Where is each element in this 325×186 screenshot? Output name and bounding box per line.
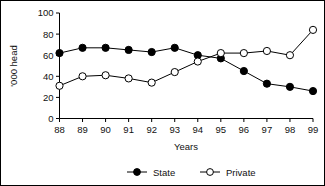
x-tick-label: 97 bbox=[262, 124, 273, 135]
y-tick-label: 40 bbox=[43, 71, 54, 82]
x-tick-label: 98 bbox=[285, 124, 296, 135]
x-tick-label: 90 bbox=[100, 124, 111, 135]
data-point-state-96 bbox=[240, 67, 247, 74]
y-tick-label: 20 bbox=[43, 92, 54, 103]
y-tick-label: 0 bbox=[48, 113, 53, 124]
legend-label-private: Private bbox=[226, 167, 256, 178]
data-point-private-90 bbox=[102, 72, 109, 79]
y-tick-label: 100 bbox=[38, 7, 54, 18]
y-tick-label: 80 bbox=[43, 29, 54, 40]
x-tick-label: 96 bbox=[239, 124, 250, 135]
data-point-private-94 bbox=[194, 58, 201, 65]
data-point-state-93 bbox=[171, 44, 178, 51]
data-point-private-89 bbox=[79, 73, 86, 80]
legend-marker-private bbox=[207, 169, 214, 176]
chart-canvas: 020406080100 888990919293949596979899 Ye… bbox=[0, 0, 325, 186]
legend-label-state: State bbox=[153, 167, 175, 178]
data-point-state-99 bbox=[309, 87, 316, 94]
data-point-private-97 bbox=[263, 47, 270, 54]
x-tick-label: 94 bbox=[192, 124, 203, 135]
x-tick-label: 93 bbox=[169, 124, 180, 135]
legend-marker-state bbox=[134, 169, 141, 176]
data-point-state-90 bbox=[102, 44, 109, 51]
data-point-state-98 bbox=[286, 83, 293, 90]
x-tick-label: 91 bbox=[123, 124, 134, 135]
data-point-private-88 bbox=[56, 82, 63, 89]
data-point-state-88 bbox=[56, 49, 63, 56]
data-point-private-92 bbox=[148, 79, 155, 86]
data-point-private-98 bbox=[286, 52, 293, 59]
data-point-private-96 bbox=[240, 49, 247, 56]
data-point-state-97 bbox=[263, 80, 270, 87]
x-tick-label: 95 bbox=[216, 124, 227, 135]
x-tick-label: 99 bbox=[308, 124, 319, 135]
x-tick-label: 89 bbox=[77, 124, 88, 135]
data-point-private-99 bbox=[309, 26, 316, 33]
data-point-state-92 bbox=[148, 48, 155, 55]
x-tick-label: 88 bbox=[54, 124, 65, 135]
data-point-state-89 bbox=[79, 44, 86, 51]
y-axis-title: '000 head bbox=[8, 45, 19, 86]
x-tick-label: 92 bbox=[146, 124, 157, 135]
data-point-state-91 bbox=[125, 46, 132, 53]
data-point-private-95 bbox=[217, 49, 224, 56]
line-chart: 020406080100 888990919293949596979899 Ye… bbox=[0, 0, 325, 186]
x-axis-title: Years bbox=[174, 141, 198, 152]
data-point-private-93 bbox=[171, 68, 178, 75]
y-tick-label: 60 bbox=[43, 50, 54, 61]
data-point-private-91 bbox=[125, 75, 132, 82]
